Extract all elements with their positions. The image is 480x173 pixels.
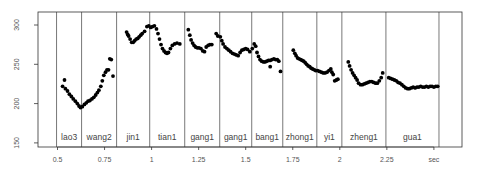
pitch-point bbox=[203, 50, 207, 54]
pitch-point bbox=[279, 70, 283, 74]
segment-labels: lao3wang2jin1tian1gang1gang1bang1zhong1y… bbox=[61, 132, 422, 142]
pitch-point bbox=[167, 51, 171, 55]
pitch-point bbox=[186, 28, 190, 32]
pitch-point bbox=[109, 58, 113, 62]
y-axis: 150200250300 bbox=[13, 19, 38, 149]
pitch-point bbox=[155, 27, 159, 31]
pitch-point bbox=[236, 54, 240, 58]
pitch-point bbox=[169, 47, 173, 51]
x-tick-label: sec bbox=[428, 156, 439, 163]
segment-label: lao3 bbox=[61, 132, 77, 142]
pitch-point bbox=[331, 73, 335, 77]
x-tick-label: 1.75 bbox=[286, 156, 300, 163]
pitch-point bbox=[111, 74, 115, 78]
segment-label: tian1 bbox=[158, 132, 177, 142]
x-tick-label: 1.25 bbox=[192, 156, 206, 163]
pitch-point bbox=[100, 79, 104, 83]
x-axis: 0.50.7511.251.51.7522.25sec bbox=[53, 147, 440, 163]
pitch-point bbox=[153, 24, 157, 28]
pitch-point bbox=[156, 32, 160, 36]
segment-label: jin1 bbox=[126, 132, 141, 142]
pitch-point bbox=[159, 43, 163, 47]
pitch-point bbox=[66, 89, 70, 93]
y-tick-label: 200 bbox=[13, 98, 20, 110]
x-tick-label: 1 bbox=[150, 156, 154, 163]
x-tick-label: 0.5 bbox=[53, 156, 63, 163]
pitch-point bbox=[255, 51, 259, 55]
pitch-point bbox=[254, 44, 258, 48]
segment-label: bang1 bbox=[255, 132, 279, 142]
pitch-point bbox=[277, 59, 281, 63]
pitch-point bbox=[248, 50, 252, 54]
pitch-point bbox=[143, 29, 147, 33]
pitch-point bbox=[381, 71, 385, 75]
y-tick-label: 150 bbox=[13, 137, 20, 149]
segment-label: wang2 bbox=[86, 132, 112, 142]
pitch-point bbox=[379, 76, 383, 80]
pitch-point bbox=[268, 65, 272, 69]
y-tick-label: 300 bbox=[13, 19, 20, 31]
pitch-point bbox=[218, 35, 222, 39]
x-tick-label: 2 bbox=[338, 156, 342, 163]
pitch-point bbox=[346, 60, 350, 64]
segment-label: zheng1 bbox=[350, 132, 378, 142]
segment-label: zhong1 bbox=[286, 132, 314, 142]
pitch-contour-chart: lao3wang2jin1tian1gang1gang1bang1zhong1y… bbox=[0, 0, 480, 173]
segment-label: gua1 bbox=[403, 132, 422, 142]
pitch-point bbox=[178, 42, 182, 46]
segment-label: gang1 bbox=[224, 132, 248, 142]
pitch-point bbox=[158, 37, 162, 41]
pitch-point bbox=[250, 47, 254, 51]
pitch-point bbox=[97, 88, 101, 92]
pitch-point bbox=[188, 33, 192, 37]
pitch-point bbox=[99, 84, 103, 88]
x-tick-label: 1.5 bbox=[241, 156, 251, 163]
pitch-point bbox=[348, 64, 352, 68]
pitch-point bbox=[63, 78, 67, 82]
pitch-points bbox=[61, 24, 440, 110]
x-tick-label: 0.75 bbox=[98, 156, 112, 163]
segment-label: gang1 bbox=[190, 132, 214, 142]
pitch-point bbox=[107, 68, 111, 72]
pitch-point bbox=[436, 84, 440, 88]
segment-label: yi1 bbox=[324, 132, 335, 142]
pitch-point bbox=[336, 77, 340, 81]
x-tick-label: 2.25 bbox=[380, 156, 394, 163]
y-tick-label: 250 bbox=[13, 58, 20, 70]
pitch-point bbox=[210, 43, 214, 47]
